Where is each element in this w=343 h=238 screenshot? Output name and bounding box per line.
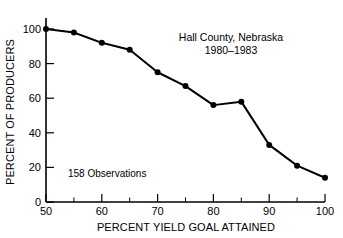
y-tick-label-20: 20: [29, 161, 41, 173]
y-tick-label-40: 40: [29, 127, 41, 139]
x-tick-label-80: 80: [207, 205, 219, 217]
data-point: [210, 102, 216, 108]
annotation-observations: 158 Observations: [68, 168, 146, 179]
data-point: [99, 40, 105, 46]
data-line-series-0: [46, 29, 325, 178]
y-axis-ticks: [46, 29, 54, 202]
line-chart: 0 20 40 60 80 100 50 60 70 80 90 100: [0, 0, 343, 238]
annotation-years: 1980–1983: [205, 44, 258, 56]
data-point: [127, 47, 133, 53]
x-tick-label-70: 70: [151, 205, 163, 217]
y-tick-label-60: 60: [29, 92, 41, 104]
y-axis-title: PERCENT OF PRODUCERS: [4, 39, 16, 185]
chart-figure: 0 20 40 60 80 100 50 60 70 80 90 100: [0, 0, 343, 238]
data-point: [294, 163, 300, 169]
annotation-location: Hall County, Nebraska: [179, 31, 283, 43]
data-point: [183, 83, 189, 89]
y-tick-label-80: 80: [29, 58, 41, 70]
data-point: [155, 69, 161, 75]
x-tick-label-100: 100: [316, 205, 334, 217]
data-point: [266, 142, 272, 148]
data-point: [43, 26, 49, 32]
data-point: [71, 29, 77, 35]
x-tick-label-50: 50: [40, 205, 52, 217]
x-tick-label-90: 90: [263, 205, 275, 217]
y-tick-label-100: 100: [23, 23, 41, 35]
data-point: [322, 175, 328, 181]
data-point: [238, 99, 244, 105]
x-axis-title: PERCENT YIELD GOAL ATTAINED: [97, 221, 275, 233]
x-tick-label-60: 60: [96, 205, 108, 217]
